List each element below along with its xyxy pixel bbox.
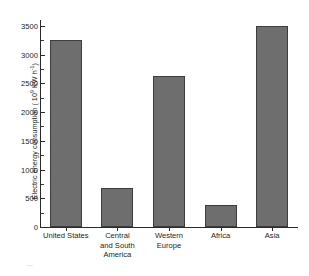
category-label-western-europe: Western Europe [143, 231, 195, 250]
bar-chart-figure: Electric energy consumption ( 109 KW h-1… [0, 0, 309, 276]
category-label-line: United States [40, 231, 92, 241]
category-label-line: Asia [246, 231, 298, 241]
bar-africa [205, 205, 237, 227]
category-label-line: Central [92, 231, 144, 241]
plot-area: 0500100015002000250030003500 [40, 20, 298, 228]
category-label-africa: Africa [195, 231, 247, 241]
y-minor-tick-250 [41, 213, 44, 214]
category-label-line: and South [92, 241, 144, 251]
y-tick-2000: 2000 [41, 112, 45, 113]
y-minor-tick-750 [41, 184, 44, 185]
y-tick-label-2500: 2500 [21, 79, 38, 88]
x-axis-category-labels: United StatesCentraland SouthAmericaWest… [40, 231, 298, 275]
y-tick-0: 0 [41, 227, 45, 228]
category-label-line: America [92, 250, 144, 260]
y-minor-tick-3250 [41, 40, 44, 41]
y-tick-label-3500: 3500 [21, 21, 38, 30]
y-tick-500: 500 [41, 198, 45, 199]
y-tick-label-3000: 3000 [21, 50, 38, 59]
y-minor-tick-2750 [41, 69, 44, 70]
y-tick-3500: 3500 [41, 26, 45, 27]
y-minor-tick-2250 [41, 98, 44, 99]
y-tick-1500: 1500 [41, 141, 45, 142]
y-axis-exponent-nine: 9 [29, 90, 35, 93]
y-tick-2500: 2500 [41, 83, 45, 84]
bar-united-states [50, 40, 82, 227]
y-axis-title-suffix: ) [30, 63, 39, 65]
y-tick-1000: 1000 [41, 170, 45, 171]
y-tick-label-500: 500 [25, 194, 38, 203]
y-tick-label-2000: 2000 [21, 108, 38, 117]
y-tick-label-1500: 1500 [21, 136, 38, 145]
category-label-line: Western Europe [143, 231, 195, 250]
y-minor-tick-1250 [41, 155, 44, 156]
category-label-central-and-south-america: Centraland SouthAmerica [92, 231, 144, 260]
y-tick-label-1000: 1000 [21, 165, 38, 174]
y-minor-tick-1750 [41, 126, 44, 127]
category-label-line: Africa [195, 231, 247, 241]
scan-artifact: — [27, 262, 33, 268]
bar-central-and-south-america [101, 188, 133, 227]
y-axis-line [40, 20, 41, 228]
bar-western-europe [153, 76, 185, 227]
y-tick-label-0: 0 [34, 223, 38, 232]
y-tick-3000: 3000 [41, 55, 45, 56]
category-label-asia: Asia [246, 231, 298, 241]
bar-asia [256, 26, 288, 227]
y-axis-exponent-minus-one: -1 [29, 66, 35, 71]
category-label-united-states: United States [40, 231, 92, 241]
